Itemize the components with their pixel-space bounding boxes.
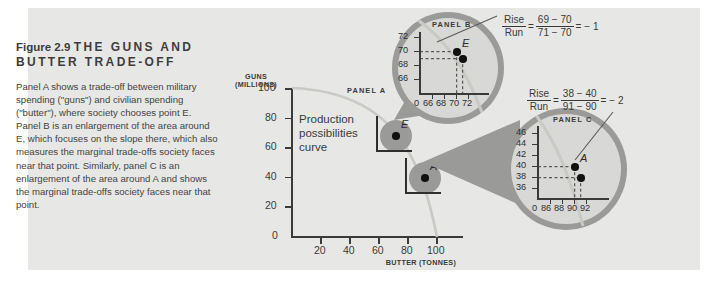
panel-c-rise-run-fraction: Rise Run bbox=[527, 88, 551, 112]
panel-c-result: − 2 bbox=[609, 95, 623, 106]
panel-c-rise-text: Rise bbox=[527, 88, 551, 101]
panel-c-denominator: 91 − 90 bbox=[561, 101, 599, 113]
panel-c-equals-1: = bbox=[553, 95, 559, 106]
panel-c-numerator: 38 − 40 bbox=[561, 88, 599, 101]
panel-c-leader-line bbox=[0, 0, 717, 289]
panel-c-slope-formula: Rise Run = 38 − 40 91 − 90 = − 2 bbox=[525, 88, 624, 112]
panel-c-equals-2: = bbox=[601, 95, 607, 106]
figure-page: Figure 2.9 THE GUNS AND BUTTER TRADE-OFF… bbox=[0, 0, 717, 289]
panel-c-value-fraction: 38 − 40 91 − 90 bbox=[561, 88, 599, 112]
panel-c-run-text: Run bbox=[528, 101, 550, 113]
